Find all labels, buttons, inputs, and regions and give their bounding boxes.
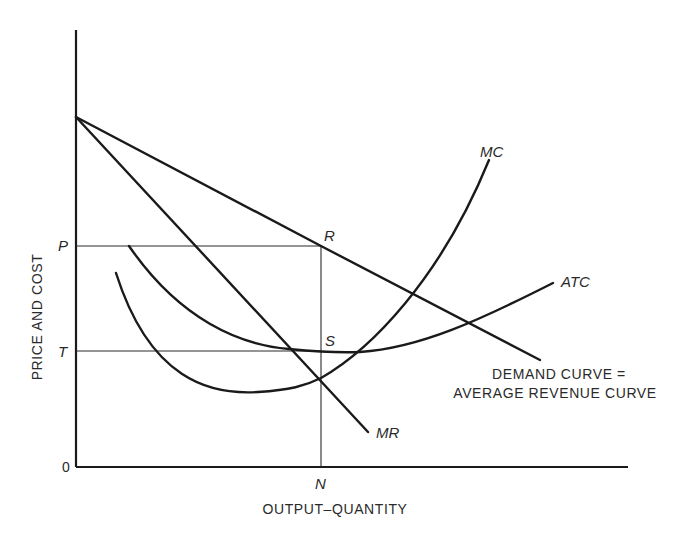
demand-label-line1: DEMAND CURVE =: [492, 366, 626, 382]
monopoly-diagram: PRICE AND COST OUTPUT–QUANTITY 0 P T N R…: [0, 0, 687, 536]
atc-label: ATC: [560, 273, 590, 290]
marginal-revenue-curve: [76, 117, 368, 432]
point-s-label: S: [325, 332, 335, 349]
demand-curve: [76, 117, 540, 360]
demand-label-line2: AVERAGE REVENUE CURVE: [453, 385, 656, 401]
marginal-cost-curve: [116, 160, 489, 392]
price-marker-label: P: [58, 237, 68, 254]
x-axis-label: OUTPUT–QUANTITY: [262, 501, 407, 517]
quantity-marker-label: N: [315, 475, 326, 492]
mc-label: MC: [480, 143, 503, 160]
mr-label: MR: [376, 424, 399, 441]
origin-label: 0: [62, 459, 70, 475]
average-total-cost-curve: [129, 246, 553, 352]
y-axis-label: PRICE AND COST: [29, 254, 45, 381]
point-r-label: R: [324, 227, 335, 244]
cost-marker-label: T: [58, 343, 69, 360]
